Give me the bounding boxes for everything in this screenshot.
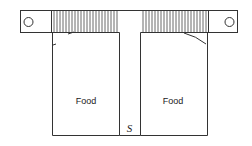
left-food-label: Food [76,96,97,106]
separator-label: S [127,122,133,134]
right-food-label: Food [163,96,184,106]
right-tab-hole [225,18,234,27]
hatching [54,11,206,32]
right-compartment [141,33,208,136]
food-box-diagram: Food Food S [0,0,252,146]
right-tab [209,11,238,33]
left-flap-mark [53,44,56,45]
left-tab-hole [24,18,33,27]
left-tab [21,11,52,33]
diagram-canvas: Food Food S [0,0,252,146]
right-flap [184,33,206,44]
left-compartment [53,33,120,136]
